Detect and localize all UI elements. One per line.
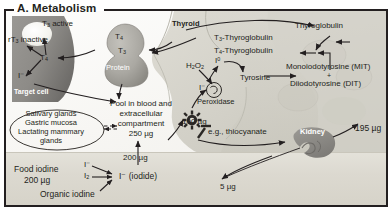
frame-left-edge (4, 9, 6, 207)
kidney-label: Kidney (300, 128, 325, 136)
iodine-atom-text: I0 (215, 56, 220, 65)
t4-thyroglobulin-text: T4-Thyroglobulin (214, 46, 273, 55)
t3-active-label: T3 active (42, 20, 73, 29)
thyroid-label: Thyroid (172, 20, 200, 28)
protein-label: Protein (106, 64, 130, 72)
pool-line3-label: compartment (118, 120, 165, 129)
gut-iodide-ion-label: I⁻ (84, 161, 90, 170)
t3-thyroglobulin-label: T3-Thyroglobulin (214, 34, 273, 43)
target-cell-t4-label: T4 (40, 54, 48, 63)
thyroid-iodide-label: I⁻ (199, 84, 205, 93)
pool-line1-label: Pool in blood and (110, 100, 172, 109)
peroxidase-label: Peroxidase (197, 98, 235, 106)
metabolism-diagram-panel: A. Metabolism T3 active rT3 inactive T4 … (0, 0, 392, 211)
rt3-inactive-label: rT3 inactive (8, 36, 48, 45)
kidney-excretion-amount-label: 195 µg (355, 124, 381, 134)
diiodotyrosine-label: Diiodotyrosine (DIT) (290, 80, 361, 89)
fecal-loss-amount-label: 5 µg (220, 183, 236, 192)
frame-right-edge (386, 9, 388, 207)
organic-iodine-label: Organic iodine (40, 190, 95, 200)
hydrogen-peroxide-text: H2O2 (186, 61, 204, 70)
target-cell-name-label: Target cell (14, 88, 49, 96)
food-iodine-label: Food iodine (14, 165, 58, 175)
gut-iodine-molecule-label: I2 (84, 172, 89, 181)
food-iodine-amount-label: 200 µg (24, 176, 50, 186)
gut-iodine-molecule-text: I2 (84, 171, 89, 180)
pool-line2-label: extracellular (119, 110, 162, 119)
thiocyanate-note-label: e.g., thiocyanate (208, 128, 267, 137)
blob-t4-text: T4 (115, 32, 123, 41)
blob-t4-label: T4 (115, 33, 123, 42)
pool-amount-label: 250 µg (129, 130, 154, 139)
blob-t3-text: T3 (118, 46, 126, 55)
thyroglobulin-label: Thyroglobulin (295, 22, 343, 31)
t3-thyroglobulin-text: T3-Thyroglobulin (214, 33, 273, 42)
iodide-named-label: I⁻ (iodide) (119, 172, 157, 182)
tyrosine-label: Tyrosine (240, 74, 270, 83)
absorbed-amount-label: 200 µg (123, 154, 148, 163)
blob-t3-label: T3 (118, 47, 126, 56)
thyroid-uptake-amount-label: 100 µg (182, 118, 207, 127)
monoiodotyrosine-label: Monoiodotyrosine (MIT) (286, 63, 370, 72)
page-title: A. Metabolism (17, 2, 96, 14)
frame-top-right-segment (104, 9, 388, 11)
hydrogen-peroxide-label: H2O2 (186, 62, 204, 71)
target-cell-iodide-label: I⁻ (18, 72, 24, 81)
target-cell-t4-text: T4 (40, 53, 48, 62)
iodine-atom-label: I0 (215, 56, 220, 66)
t3-active-text: T3 active (42, 19, 73, 28)
frame-bottom-edge (4, 205, 388, 207)
t4-thyroglobulin-label: T4-Thyroglobulin (214, 47, 273, 56)
glands-label: glands (40, 137, 62, 145)
rt3-inactive-text: rT3 inactive (8, 35, 48, 44)
